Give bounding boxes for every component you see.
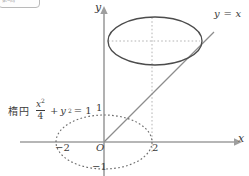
x-tick-label-negative-2: −2 [55,143,70,153]
y-axis-label: y [95,2,101,13]
ellipse-equation-caption: 楕円 x2 4 + y2 = 1 [8,100,92,121]
plus-sign: + [50,105,58,116]
y-variable: y [60,105,66,116]
guide-line-group [108,18,200,152]
corner-tag-label: 第5問 [2,0,15,2]
x-axis-label: x [238,133,244,144]
y-tick-label-negative-1: −1 [92,162,107,172]
fraction-denominator: 4 [36,110,46,121]
y-tick-label-positive-1: 1 [96,103,102,113]
caption-japanese-prefix: 楕円 [8,103,29,118]
line-equation-label: y = x [214,9,242,19]
line-y-equals-x [104,32,214,142]
corner-tag-box: 第5問 [0,0,40,8]
fraction-numerator: x2 [34,100,47,110]
axis-group [20,6,242,176]
y-axis-arrowhead [100,6,107,14]
coordinate-plot-svg [0,0,249,176]
numerator-exponent: 2 [41,97,45,104]
math-figure: y x y = x −2 2 1 −1 O 楕円 x2 4 + y2 = 1 第… [0,0,249,176]
x-tick-label-positive-2: 2 [152,143,158,153]
fraction-x-squared-over-4: x2 4 [34,100,47,121]
equals-one: = 1 [74,105,92,116]
origin-label: O [96,143,104,153]
